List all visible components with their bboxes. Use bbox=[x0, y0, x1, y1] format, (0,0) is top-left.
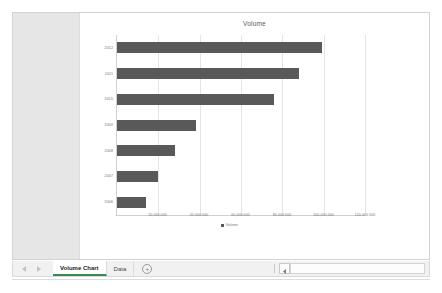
bar-2011[interactable] bbox=[117, 68, 299, 79]
status-bar-rule bbox=[12, 279, 430, 280]
bars-container[interactable] bbox=[116, 35, 365, 215]
triangle-left-icon[interactable] bbox=[22, 266, 27, 272]
x-axis-tick-label: 40,000,000 bbox=[190, 213, 209, 217]
bar-2007[interactable] bbox=[117, 171, 158, 182]
x-axis-tick-label: 20,000,000 bbox=[148, 213, 167, 217]
plot-area[interactable]: 2012201120102009200820072006 -20,000,000… bbox=[94, 35, 365, 229]
y-axis-labels[interactable]: 2012201120102009200820072006 bbox=[94, 35, 116, 215]
y-axis-label: 2009 bbox=[105, 123, 113, 127]
sheet-tabs: Volume ChartData bbox=[53, 261, 134, 276]
sheet-nav-arrows bbox=[13, 266, 53, 272]
y-axis-label: 2008 bbox=[105, 149, 113, 153]
x-axis-tick-label: 120,000,000 bbox=[355, 213, 376, 217]
x-axis-tick-label: 60,000,000 bbox=[231, 213, 250, 217]
y-axis-label: 2010 bbox=[105, 97, 113, 101]
horizontal-scrollbar[interactable] bbox=[279, 264, 425, 273]
legend-swatch bbox=[221, 224, 224, 227]
plus-icon: + bbox=[142, 264, 152, 274]
gridline bbox=[365, 35, 366, 215]
scroll-left-button[interactable] bbox=[279, 263, 290, 274]
add-sheet-button[interactable]: + bbox=[134, 261, 160, 276]
gridline bbox=[324, 35, 325, 215]
sheet-tab-bar: Volume ChartData + bbox=[12, 261, 430, 277]
bar-2012[interactable] bbox=[117, 42, 322, 53]
bar-2008[interactable] bbox=[117, 145, 175, 156]
sheet-tab-data[interactable]: Data bbox=[107, 261, 135, 276]
x-axis-ticks[interactable]: -20,000,00040,000,00060,000,00080,000,00… bbox=[116, 213, 365, 223]
bar-2006[interactable] bbox=[117, 197, 146, 208]
sheet-tab-volume-chart[interactable]: Volume Chart bbox=[53, 261, 107, 276]
bar-2010[interactable] bbox=[117, 94, 274, 105]
triangle-left-icon bbox=[283, 260, 287, 278]
y-axis-label: 2006 bbox=[105, 200, 113, 204]
y-axis-label: 2011 bbox=[105, 72, 113, 76]
gridline bbox=[282, 35, 283, 215]
y-axis-label: 2007 bbox=[105, 174, 113, 178]
bar-2009[interactable] bbox=[117, 120, 196, 131]
x-axis-tick-label: 100,000,000 bbox=[313, 213, 334, 217]
gridline bbox=[200, 35, 201, 215]
chart-title[interactable]: Volume bbox=[80, 20, 429, 27]
worksheet-pane[interactable] bbox=[13, 13, 79, 259]
legend-label: Volume bbox=[226, 223, 238, 227]
chart-object[interactable]: Volume bbox=[79, 13, 429, 259]
workbook-body: Volume bbox=[12, 12, 430, 260]
triangle-right-icon[interactable] bbox=[36, 266, 41, 272]
y-axis-label: 2012 bbox=[105, 46, 113, 50]
x-axis-tick-label: 80,000,000 bbox=[273, 213, 292, 217]
scroll-track[interactable] bbox=[290, 263, 425, 274]
excel-chart-sheet-window: Volume bbox=[0, 0, 442, 293]
gridline bbox=[241, 35, 242, 215]
x-axis-tick-label: - bbox=[115, 213, 116, 217]
chart-legend[interactable]: Volume bbox=[94, 223, 365, 227]
split-handle[interactable] bbox=[274, 264, 275, 273]
